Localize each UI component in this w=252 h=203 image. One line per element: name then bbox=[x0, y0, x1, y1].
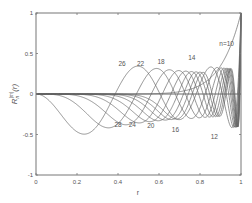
x-tick-label: 0.8 bbox=[196, 179, 205, 185]
curve-n-20 bbox=[36, 13, 241, 127]
curve-n-10 bbox=[36, 13, 241, 94]
curve-label: 24 bbox=[129, 121, 137, 128]
x-tick-label: 0.4 bbox=[114, 179, 123, 185]
curve-label: n=10 bbox=[219, 40, 234, 47]
curve-label: 28 bbox=[114, 121, 122, 128]
y-axis-label: Rn|m|(r) bbox=[8, 84, 20, 105]
curve-label: 26 bbox=[118, 60, 126, 67]
curve-label: 18 bbox=[157, 58, 165, 65]
curve-label: 22 bbox=[137, 60, 145, 67]
y-tick-label: 0 bbox=[30, 91, 34, 97]
curve-label: 14 bbox=[188, 54, 196, 61]
chart-svg: 00.20.40.60.81 -1-0.500.51 n=10121416182… bbox=[0, 0, 252, 203]
y-tick-label: 1 bbox=[30, 10, 34, 16]
x-tick-label: 0.6 bbox=[155, 179, 164, 185]
curve-n-18 bbox=[36, 13, 241, 127]
y-tick-label: 0.5 bbox=[25, 51, 34, 57]
curve-label: 20 bbox=[147, 122, 155, 129]
curves bbox=[36, 13, 241, 134]
curve-n-24 bbox=[36, 13, 241, 127]
x-tick-label: 0 bbox=[34, 179, 38, 185]
x-axis-label: r bbox=[137, 189, 140, 196]
radial-polynomial-chart: 00.20.40.60.81 -1-0.500.51 n=10121416182… bbox=[0, 0, 252, 203]
curve-n-22 bbox=[36, 13, 241, 127]
curve-n-12 bbox=[36, 13, 241, 134]
y-tick-label: -0.5 bbox=[23, 132, 34, 138]
curve-n-26 bbox=[36, 13, 241, 127]
x-tick-label: 1 bbox=[239, 179, 243, 185]
y-tick-label: -1 bbox=[28, 172, 34, 178]
x-tick-label: 0.2 bbox=[73, 179, 82, 185]
curve-label: 12 bbox=[211, 133, 219, 140]
x-axis-ticks: 00.20.40.60.81 bbox=[34, 13, 243, 185]
curve-n-28 bbox=[36, 13, 241, 127]
svg-text:Rn|m|(r): Rn|m|(r) bbox=[8, 84, 20, 105]
curve-label: 16 bbox=[172, 126, 180, 133]
